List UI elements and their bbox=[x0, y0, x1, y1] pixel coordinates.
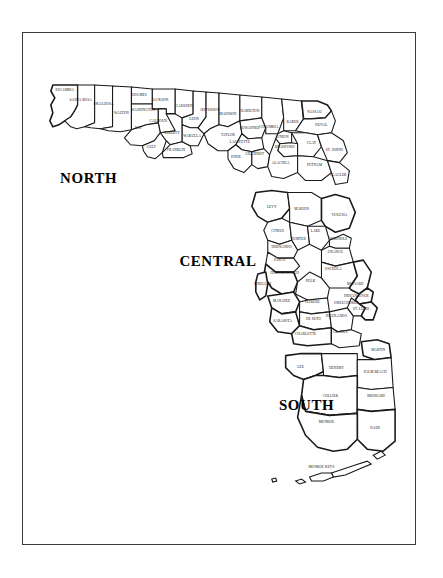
county-label: MONROE KEYS bbox=[308, 465, 334, 469]
key-island-biscayne[interactable] bbox=[373, 451, 385, 459]
map-canvas: ESCAMBIASANTA ROSAOKALOOSAWALTONHOLMESJA… bbox=[23, 33, 415, 544]
county-label: OSCEOLA bbox=[325, 267, 342, 271]
region-label-south: SOUTH bbox=[279, 397, 334, 413]
map-frame: ESCAMBIASANTA ROSAOKALOOSAWALTONHOLMESJA… bbox=[22, 32, 416, 545]
county-label: OKALOOSA bbox=[94, 102, 114, 106]
county-label: CITRUS bbox=[271, 229, 284, 233]
county-label: LEON bbox=[189, 117, 199, 121]
florida-county-map: ESCAMBIASANTA ROSAOKALOOSAWALTONHOLMESJA… bbox=[23, 33, 415, 544]
county-label: SUMTER bbox=[291, 237, 306, 241]
county-label: CALHOUN bbox=[149, 119, 167, 123]
county-label: UNION bbox=[277, 135, 289, 139]
county-label: SARASOTA bbox=[273, 319, 292, 323]
county-label: ST. JOHNS bbox=[326, 148, 343, 152]
map-page: ESCAMBIASANTA ROSAOKALOOSAWALTONHOLMESJA… bbox=[0, 0, 443, 578]
county-label: BAY bbox=[135, 126, 143, 130]
county-label: DIXIE bbox=[231, 155, 241, 159]
county-label: WAKULLA bbox=[183, 134, 201, 138]
county-label: HAMILTON bbox=[240, 109, 259, 113]
county-label: GLADES bbox=[333, 330, 347, 334]
county-label: PINELLAS bbox=[254, 282, 271, 286]
county-label: ESCAMBIA bbox=[55, 88, 74, 92]
region-label-north: NORTH bbox=[60, 170, 117, 186]
county-label: HIGHLANDS bbox=[326, 314, 347, 318]
county-label: MADISON bbox=[220, 112, 237, 116]
county-label: LIBERTY bbox=[165, 131, 181, 135]
county-label: WALTON bbox=[114, 111, 129, 115]
county-label: POLK bbox=[306, 279, 316, 283]
county-label: SANTA ROSA bbox=[70, 98, 93, 102]
county-label: BREVARD bbox=[347, 282, 364, 286]
county-label: VOLUSIA bbox=[331, 213, 347, 217]
county-label: GULF bbox=[147, 145, 156, 149]
county-label: FLAGLER bbox=[330, 173, 347, 177]
county-label: SEMINOLE bbox=[329, 237, 347, 241]
county-label: MARION bbox=[294, 207, 309, 211]
county-label: BROWARD bbox=[367, 394, 385, 398]
county-label: LAFAYETTE bbox=[230, 140, 250, 144]
county-label: INDIAN RIVER bbox=[344, 294, 369, 298]
county-label: JACKSON bbox=[152, 98, 169, 102]
county-label: BRADFORD bbox=[275, 145, 295, 149]
county-label: LEVY bbox=[267, 205, 277, 209]
county-label: PASCO bbox=[274, 258, 286, 262]
county-label: BAKER bbox=[286, 120, 299, 124]
county-label: ALACHUA bbox=[272, 161, 290, 165]
county-label: WASHINGTON bbox=[131, 108, 155, 112]
county-label: PALM BEACH bbox=[364, 370, 387, 374]
county-label: OKEECHOBEE bbox=[334, 301, 358, 305]
county-label: PUTNAM bbox=[307, 163, 322, 167]
county-label: MANATEE bbox=[273, 299, 290, 303]
county-label: NASSAU bbox=[307, 110, 322, 114]
county-broward[interactable] bbox=[357, 387, 395, 411]
county-label: DE SOTO bbox=[306, 317, 322, 321]
county-label: GILCHRIST bbox=[245, 152, 265, 156]
county-label: MARTIN bbox=[371, 348, 385, 352]
county-label: DADE bbox=[370, 426, 380, 430]
county-label: GADSDEN bbox=[176, 104, 194, 108]
county-label: TAYLOR bbox=[221, 133, 236, 137]
county-label: LEE bbox=[297, 365, 304, 369]
county-label: FRANKLIN bbox=[167, 148, 186, 152]
central-counties bbox=[252, 191, 377, 348]
region-label-central: CENTRAL bbox=[179, 253, 256, 269]
county-label: CHARLOTTE bbox=[295, 332, 317, 336]
key-island-dry-tortugas[interactable] bbox=[272, 478, 277, 482]
county-label: CLAY bbox=[307, 141, 317, 145]
county-label: HENDRY bbox=[329, 366, 344, 370]
county-label: HOLMES bbox=[132, 93, 147, 97]
key-island-key-west[interactable] bbox=[296, 479, 306, 484]
county-label: ORANGE bbox=[328, 250, 343, 254]
county-label: JEFFERSON bbox=[200, 108, 220, 112]
county-label: HILLSBOROUGH bbox=[271, 271, 300, 275]
county-label: MONROE bbox=[319, 420, 335, 424]
county-label: LAKE bbox=[311, 229, 321, 233]
county-label: HARDEE bbox=[305, 300, 320, 304]
key-island-largo[interactable] bbox=[331, 461, 371, 477]
county-label: DUVAL bbox=[315, 123, 327, 127]
county-label: SUWANNEE bbox=[240, 126, 260, 130]
county-label: ST. LUCIE bbox=[353, 307, 370, 311]
county-madison[interactable] bbox=[219, 93, 240, 127]
county-label: HERNANDO bbox=[272, 245, 293, 249]
key-island-marathon[interactable] bbox=[310, 473, 334, 481]
county-label: COLUMBIA bbox=[259, 125, 279, 129]
